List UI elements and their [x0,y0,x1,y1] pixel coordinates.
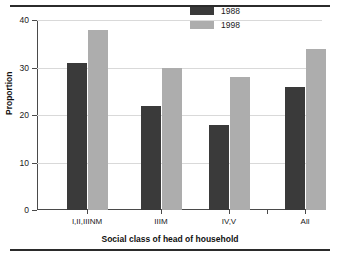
figure-container: Proportion 010203040 I,II,IIINMIIIMIV,VA… [0,0,340,264]
bar-1988-All [285,87,305,211]
bar-1998-All [306,49,326,211]
legend-item: 1998 [190,19,280,30]
bar-group [209,20,250,210]
x-tick-label: I,II,IIINM [72,217,102,226]
bar-1988-IIIM [141,106,161,211]
x-tick-mark [87,210,88,214]
y-tick-label: 30 [20,63,29,73]
x-tick-label: All [301,217,310,226]
x-tick-mark [305,210,306,214]
x-axis: I,II,IIINMIIIMIV,VAll [37,210,322,236]
x-tick-mark [229,210,230,214]
y-tick-label: 40 [20,15,29,25]
bar-1998-I,II,IIINM [88,30,108,211]
y-tick-label: 10 [20,158,29,168]
x-tick-label: IIIM [154,217,167,226]
x-tick-mark [161,210,162,214]
legend-swatch-icon [190,7,214,15]
legend: 1988 1998 [190,5,280,33]
bar-group [285,20,326,210]
x-tick-mark [267,210,268,214]
top-rule [10,5,330,7]
legend-item: 1988 [190,5,280,16]
y-tick-label: 20 [20,110,29,120]
y-axis-title: Proportion [4,72,14,115]
x-axis-title: Social class of head of household [0,234,340,244]
bar-1988-IV,V [209,125,229,211]
y-tick-label: 0 [24,205,29,215]
bottom-rule [10,249,330,251]
bar-1998-IIIM [162,68,182,211]
bar-group [67,20,108,210]
bar-group [141,20,182,210]
legend-swatch-icon [190,21,214,29]
bar-1998-IV,V [230,77,250,210]
legend-label: 1998 [221,20,240,30]
bar-1988-I,II,IIINM [67,63,87,210]
bars-layer [37,20,322,210]
legend-label: 1988 [221,6,240,16]
x-tick-label: IV,V [222,217,236,226]
plot-area: 010203040 [37,20,322,210]
